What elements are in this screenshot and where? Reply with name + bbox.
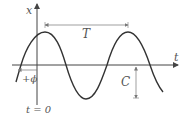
period-label: T xyxy=(82,27,91,41)
phase-label: +ϕ xyxy=(22,73,37,84)
origin-label: t = 0 xyxy=(26,104,52,115)
t-axis-label: t xyxy=(174,51,179,64)
sinusoid-diagram: x t T +ϕ C t = 0 xyxy=(0,0,187,117)
amplitude-label: C xyxy=(121,75,130,89)
x-axis-label: x xyxy=(26,4,33,17)
